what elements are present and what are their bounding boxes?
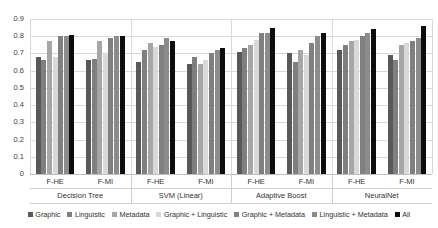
bar [108, 38, 113, 174]
group-label: Decision Tree [30, 188, 131, 203]
bar [120, 36, 125, 174]
legend-item[interactable]: Graphic [28, 210, 61, 219]
metric-label: F-HE [231, 174, 281, 188]
bar [242, 48, 247, 174]
bar [209, 53, 214, 174]
bar [58, 36, 63, 174]
group-label: Adaptive Boost [231, 188, 332, 203]
legend-item[interactable]: Linguistic + Metadata [312, 210, 388, 219]
legend-label: Graphic [35, 210, 60, 219]
legend-swatch-icon [312, 212, 317, 217]
legend-item[interactable]: All [395, 210, 411, 219]
bar [365, 33, 370, 174]
bar [337, 50, 342, 174]
bar [315, 36, 320, 174]
metric-label: F-MI [382, 174, 432, 188]
bar [69, 35, 74, 175]
legend-label: Linguistic [75, 210, 105, 219]
cell-separator [30, 19, 31, 174]
cell-separator [332, 19, 333, 174]
y-axis-tick-label: 0.9 [14, 15, 24, 23]
bar [64, 36, 69, 174]
bar-cluster [382, 19, 432, 174]
band-divider [332, 174, 333, 188]
bar [187, 64, 192, 174]
cell-separator [382, 19, 383, 174]
bar [41, 60, 46, 174]
cell-separator [181, 19, 182, 174]
band-divider [231, 188, 232, 203]
bar [248, 45, 253, 174]
y-axis-tick-label: 0.4 [14, 101, 24, 109]
cell-separator [80, 19, 81, 174]
bar-cluster [131, 19, 181, 174]
bar [203, 60, 208, 174]
bar [164, 38, 169, 174]
bar [92, 59, 97, 174]
bar [259, 33, 264, 174]
bar [136, 62, 141, 174]
legend-swatch-icon [28, 212, 33, 217]
bar [114, 36, 119, 174]
bar [349, 41, 354, 174]
bar [142, 50, 147, 174]
bar [343, 45, 348, 174]
bar [304, 55, 309, 174]
bar [293, 62, 298, 174]
metric-label: F-HE [30, 174, 80, 188]
bar [410, 41, 415, 174]
metric-label: F-MI [281, 174, 331, 188]
bar [53, 57, 58, 174]
band-divider [131, 174, 132, 188]
bar [309, 43, 314, 174]
bar [153, 47, 158, 174]
bar [198, 64, 203, 174]
bar [47, 41, 52, 174]
y-axis-tick-label: 0.7 [14, 50, 24, 58]
bar [86, 60, 91, 174]
y-axis-tick-label: 0.2 [14, 136, 24, 144]
bar-cluster [80, 19, 130, 174]
bar [321, 33, 326, 174]
bar [159, 45, 164, 174]
band-divider [131, 188, 132, 203]
y-axis-tick-label: 0.6 [14, 67, 24, 75]
legend-label: Metadata [119, 210, 149, 219]
bar [215, 50, 220, 174]
chart-legend: GraphicLinguisticMetadataGraphic + Lingu… [0, 207, 438, 221]
bar-cluster [281, 19, 331, 174]
bar [371, 29, 376, 174]
bar [270, 28, 275, 174]
bar [148, 43, 153, 174]
legend-item[interactable]: Graphic + Linguistic [156, 210, 227, 219]
cell-separator [231, 19, 232, 174]
band-divider [231, 174, 232, 188]
bar [192, 57, 197, 174]
legend-item[interactable]: Linguistic [67, 210, 104, 219]
bar [265, 33, 270, 174]
bar [354, 40, 359, 174]
bar [388, 55, 393, 174]
legend-item[interactable]: Metadata [112, 210, 149, 219]
cell-separator [432, 19, 433, 174]
bar-cluster [231, 19, 281, 174]
bar [421, 26, 426, 174]
metric-axis-band: F-HEF-MIF-HEF-MIF-HEF-MIF-HEF-MI [30, 174, 432, 189]
y-axis-tick-label: 0.3 [14, 119, 24, 127]
legend-item[interactable]: Graphic + Metadata [234, 210, 305, 219]
bar [220, 48, 225, 174]
bar [170, 41, 175, 174]
legend-swatch-icon [67, 212, 72, 217]
metric-label: F-HE [131, 174, 181, 188]
bar [298, 50, 303, 174]
group-label: SVM (Linear) [131, 188, 232, 203]
cell-separator [131, 19, 132, 174]
bar [404, 43, 409, 174]
y-axis: 00.10.20.30.40.50.60.70.80.9 [0, 19, 28, 174]
bar-cluster [30, 19, 80, 174]
y-axis-tick-label: 0 [20, 170, 24, 178]
bar-cluster [332, 19, 382, 174]
y-axis-tick-label: 0.1 [14, 153, 24, 161]
metric-label: F-MI [181, 174, 231, 188]
cell-separator [281, 19, 282, 174]
